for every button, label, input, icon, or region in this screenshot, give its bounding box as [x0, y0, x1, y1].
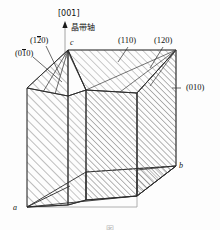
face-label-010: (010): [186, 83, 204, 92]
zone-axis-index: [001]: [58, 9, 80, 18]
axis-label-c: c: [70, 38, 74, 47]
face-label-01bar0: (010): [15, 49, 33, 58]
face-front-center: [86, 90, 137, 200]
face-label-01bar0-prefix: (0: [15, 48, 22, 58]
face-label-1bar20: (120): [30, 36, 48, 45]
face-label-01bar0-bar: 1: [22, 49, 26, 58]
zone-axis-line: [62, 21, 67, 55]
axis-label-a: a: [13, 203, 17, 212]
face-label-01bar0-suffix: 0): [26, 48, 33, 58]
face-label-1bar20-bar: 2: [37, 36, 41, 45]
zone-axis-annotation: 晶带轴: [71, 21, 95, 32]
axis-label-b: b: [179, 161, 183, 170]
face-front-left: [68, 90, 86, 205]
face-bottom-right-sliver: [137, 166, 176, 196]
face-label-1bar20-suffix: 0): [41, 35, 48, 45]
face-label-1bar20-prefix: (1: [30, 35, 37, 45]
face-label-120: (120): [154, 36, 172, 45]
face-left-hatched: [27, 88, 68, 207]
face-label-110: (110): [118, 36, 136, 45]
figure-caption: 图: [0, 223, 220, 230]
crystal-habit-figure: [001] 晶带轴 (120) (010) (110) (120) (010) …: [0, 0, 220, 230]
